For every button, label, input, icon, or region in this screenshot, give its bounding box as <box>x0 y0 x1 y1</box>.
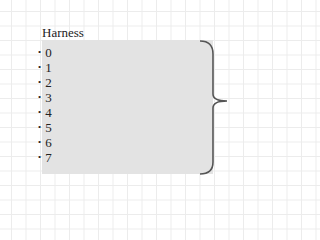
bullet-icon: • <box>38 47 41 57</box>
list-item: •3 <box>38 90 52 105</box>
list-item: •5 <box>38 120 52 135</box>
list-item: •6 <box>38 135 52 150</box>
bullet-icon: • <box>38 107 41 117</box>
harness-box <box>42 40 213 174</box>
bullet-icon: • <box>38 62 41 72</box>
bullet-icon: • <box>38 77 41 87</box>
harness-item-list: •0 •1 •2 •3 •4 •5 •6 •7 <box>38 45 52 165</box>
right-curly-brace-icon <box>195 38 235 178</box>
harness-title: Harness <box>42 25 84 41</box>
list-item: •7 <box>38 150 52 165</box>
bullet-icon: • <box>38 137 41 147</box>
list-item: •4 <box>38 105 52 120</box>
list-item: •2 <box>38 75 52 90</box>
bullet-icon: • <box>38 92 41 102</box>
list-item: •1 <box>38 60 52 75</box>
bullet-icon: • <box>38 122 41 132</box>
list-item: •0 <box>38 45 52 60</box>
bullet-icon: • <box>38 152 41 162</box>
